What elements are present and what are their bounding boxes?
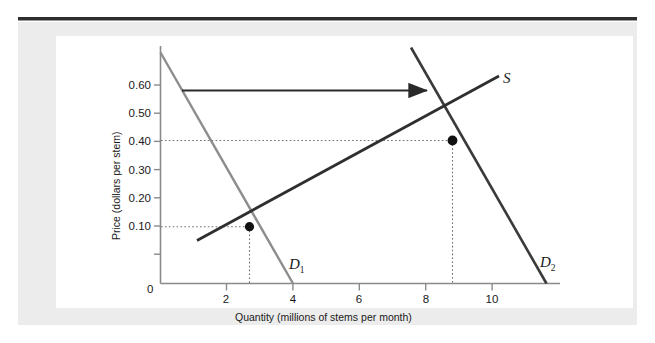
x-tick-label-4: 4	[278, 293, 308, 305]
y-tick-label-060: 0.60	[107, 79, 151, 91]
x-axis-title: Quantity (millions of stems per month)	[235, 311, 412, 323]
equilibrium-point-2	[448, 136, 458, 146]
x-tick-label-2: 2	[211, 293, 241, 305]
curve-label-d1-base: D	[289, 256, 300, 272]
curve-label-s: S	[503, 70, 511, 87]
origin-label: 0	[147, 283, 153, 295]
x-tick-label-10: 10	[477, 293, 507, 305]
curve-label-d2-sub: 2	[551, 263, 556, 273]
x-tick-label-8: 8	[411, 293, 441, 305]
supply-curve-s	[197, 76, 499, 241]
curve-label-d1: D1	[289, 256, 305, 275]
demand-curve-d1	[161, 53, 294, 284]
figure-container: 0.60 0.50 0.40 0.30 0.20 0.10 0 2 4 6 8 …	[0, 0, 655, 343]
curve-label-d1-sub: 1	[300, 265, 305, 275]
supply-demand-chart	[0, 0, 655, 343]
equilibrium-point-1	[245, 222, 254, 231]
y-axis-ticks	[154, 85, 161, 254]
guide-lines	[161, 141, 453, 284]
x-axis-ticks	[227, 284, 493, 291]
demand-curve-d2	[411, 48, 547, 284]
y-axis-title: Price (dollars per stem)	[110, 131, 122, 240]
curve-label-d2-base: D	[540, 254, 551, 270]
curve-label-d2: D2	[540, 254, 556, 273]
y-tick-label-050: 0.50	[107, 107, 151, 119]
x-tick-label-6: 6	[344, 293, 374, 305]
